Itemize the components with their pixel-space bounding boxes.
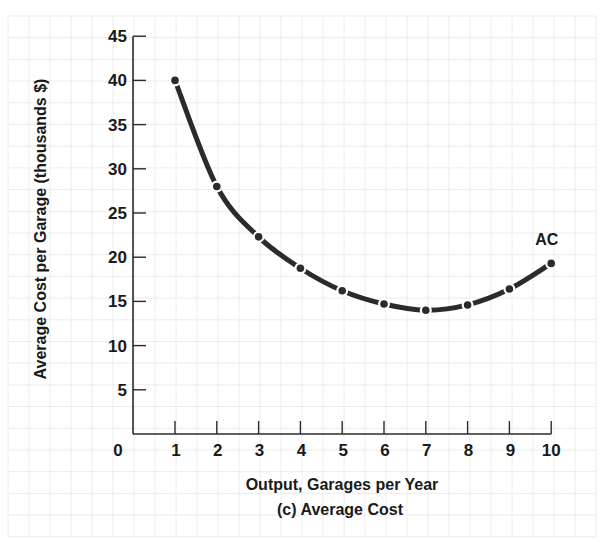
- x-axis-ticks: 012345678910: [113, 421, 560, 460]
- data-point: [171, 77, 179, 85]
- y-tick-label: 15: [108, 292, 127, 311]
- y-axis-ticks: 51015202530354045: [108, 27, 146, 400]
- x-tick-label: 6: [380, 441, 389, 460]
- data-point: [380, 300, 388, 308]
- y-tick-label: 40: [108, 71, 127, 90]
- x-tick-label: 3: [255, 441, 264, 460]
- x-tick-label: 10: [542, 441, 561, 460]
- x-tick-label: 0: [113, 441, 122, 460]
- data-point: [464, 301, 472, 309]
- y-tick-label: 30: [108, 160, 127, 179]
- data-point: [422, 306, 430, 314]
- data-point: [297, 264, 305, 272]
- chart-title: (c) Average Cost: [277, 501, 404, 518]
- y-axis-title: Average Cost per Garage (thousands $): [32, 79, 49, 380]
- data-point: [506, 285, 514, 293]
- x-tick-label: 4: [297, 441, 307, 460]
- x-tick-label: 9: [506, 441, 515, 460]
- chart-axes: [133, 36, 551, 434]
- ac-curve: [169, 74, 557, 316]
- y-tick-label: 25: [108, 204, 127, 223]
- ac-series-label: AC: [535, 231, 559, 248]
- y-tick-label: 35: [108, 116, 127, 135]
- data-point: [547, 260, 555, 268]
- x-axis-title: Output, Garages per Year: [246, 476, 439, 493]
- y-tick-label: 45: [108, 27, 127, 46]
- data-point: [255, 233, 263, 241]
- average-cost-chart: 51015202530354045 012345678910 AC Averag…: [0, 0, 602, 547]
- y-tick-label: 5: [118, 381, 127, 400]
- x-tick-label: 8: [464, 441, 473, 460]
- x-tick-label: 2: [213, 441, 222, 460]
- data-point: [338, 287, 346, 295]
- x-tick-label: 7: [422, 441, 431, 460]
- x-tick-label: 1: [171, 441, 180, 460]
- data-point: [213, 183, 221, 191]
- y-tick-label: 10: [108, 337, 127, 356]
- x-tick-label: 5: [338, 441, 347, 460]
- y-tick-label: 20: [108, 248, 127, 267]
